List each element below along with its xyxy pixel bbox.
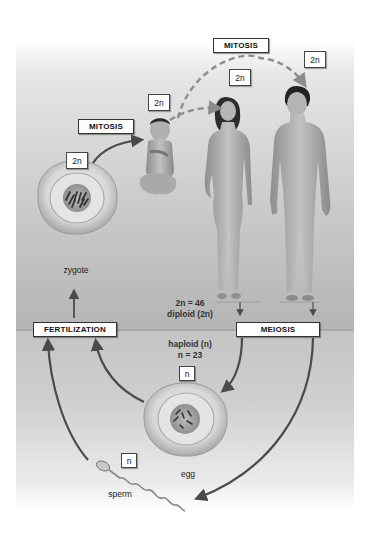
mitosis-dashed-arrow-to-female	[170, 108, 218, 120]
meiosis-label: MEIOSIS	[236, 322, 320, 337]
male-figure	[270, 86, 330, 301]
female-figure	[205, 97, 252, 299]
fertilization-label: FERTILIZATION	[33, 322, 117, 337]
ploidy-badge-sperm: n	[121, 453, 137, 468]
sperm-to-fertilization-arrow	[48, 342, 88, 460]
ploidy-badge-zygote: 2n	[66, 152, 88, 169]
egg-label: egg	[168, 469, 208, 479]
ploidy-badge-egg: n	[179, 366, 195, 381]
diploid-label: diploid (2n)	[150, 309, 230, 320]
ploidy-badge-male: 2n	[304, 51, 326, 68]
haploid-label: haploid (n)	[150, 339, 230, 350]
sperm-label: sperm	[100, 489, 140, 499]
baby-figure	[140, 118, 177, 194]
sperm-cell	[95, 459, 185, 511]
egg-cell	[144, 383, 227, 456]
mitosis-arrow-zygote-to-baby	[93, 140, 140, 163]
egg-to-fertilization-arrow	[96, 342, 144, 402]
zygote-cell	[38, 161, 117, 234]
haploid-count: n = 23	[150, 350, 230, 361]
mitosis-label-top: MITOSIS	[213, 38, 269, 53]
zygote-label: zygote	[56, 265, 96, 275]
ploidy-badge-female: 2n	[229, 69, 251, 86]
diploid-count: 2n = 46	[150, 298, 230, 309]
ploidy-badge-baby: 2n	[148, 94, 170, 111]
mitosis-dashed-arrow-to-male	[178, 56, 304, 118]
mitosis-label-left: MITOSIS	[78, 119, 134, 134]
